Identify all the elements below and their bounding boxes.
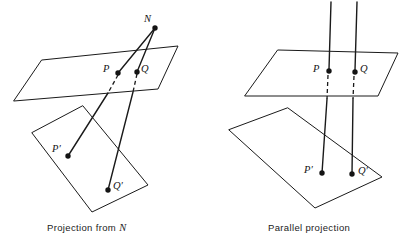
label-point-q: Q	[360, 64, 368, 75]
ray-upper-left	[329, 2, 331, 69]
point-q-prime-dot	[105, 187, 110, 192]
projection-figure: N P Q P′ Q′ P Q P′ Q′ Projection from N …	[0, 0, 403, 247]
label-point-q-prime: Q′	[113, 181, 123, 192]
point-p-prime-dot	[65, 153, 70, 158]
caption-symbol-n: N	[119, 222, 126, 233]
point-q-dot	[134, 69, 139, 74]
upper-plane-right	[245, 50, 398, 96]
caption-parallel-projection: Parallel projection	[268, 222, 350, 233]
point-p-prime-dot	[319, 170, 324, 175]
label-point-q: Q	[141, 64, 149, 75]
label-point-p-prime: P′	[304, 165, 313, 176]
ray-n-to-p	[118, 28, 155, 73]
point-p-dot	[115, 70, 120, 75]
ray-p-hidden-segment	[108, 75, 118, 93]
caption-text: Projection from	[47, 222, 116, 233]
lower-plane-right	[229, 108, 382, 208]
ray-q-hidden-segment	[133, 74, 137, 92]
ray-upper-right	[355, 2, 357, 70]
panel-parallel-projection	[229, 2, 398, 208]
point-p-dot	[326, 68, 331, 73]
figure-canvas	[0, 0, 403, 247]
point-q-dot	[352, 69, 357, 74]
caption-text: Parallel projection	[268, 222, 350, 233]
point-q-prime-dot	[349, 171, 354, 176]
label-point-p: P	[103, 64, 109, 75]
ray-hidden-left	[327, 75, 328, 99]
panel-projection-from-n	[14, 25, 178, 212]
label-point-p-prime: P′	[52, 144, 61, 155]
label-point-p: P	[313, 64, 319, 75]
label-point-n: N	[144, 14, 151, 25]
upper-plane-left	[14, 46, 178, 101]
caption-projection-from-n: Projection from N	[47, 222, 127, 233]
label-point-q-prime: Q′	[358, 166, 368, 177]
point-n-dot	[152, 25, 157, 30]
ray-p-to-p-prime	[68, 93, 108, 156]
ray-lower-right	[352, 99, 353, 174]
